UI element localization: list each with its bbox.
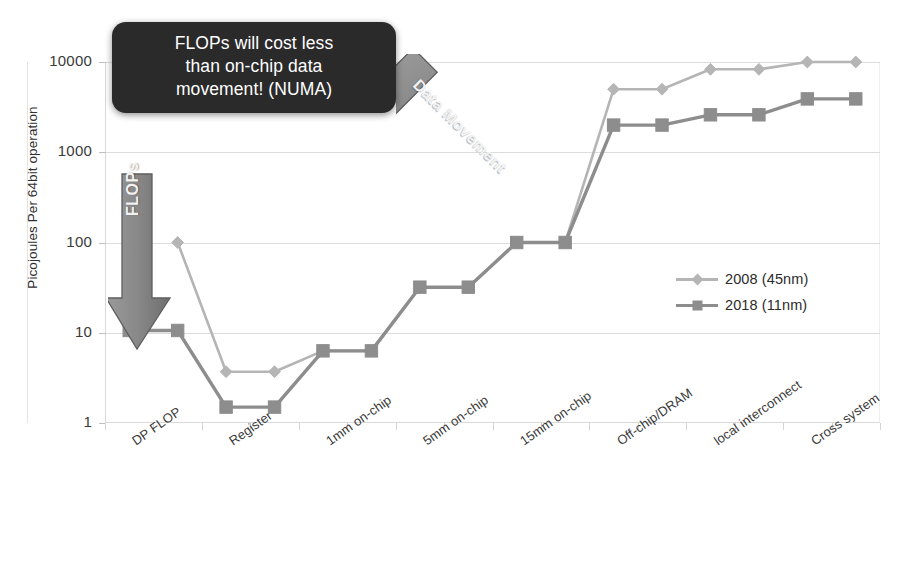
diamond-marker-icon [850, 56, 862, 68]
square-marker-icon [220, 401, 232, 413]
legend-label-2018: 2018 (11nm) [725, 297, 807, 313]
square-marker-icon [850, 93, 862, 105]
callout-line-1: FLOPs will cost less [120, 32, 388, 55]
diamond-marker-icon [691, 273, 704, 286]
square-marker-icon [268, 401, 280, 413]
flops-arrow-label: FLOPs [124, 162, 142, 216]
diamond-marker-icon [220, 366, 232, 378]
callout-line-2: than on-chip data [120, 55, 388, 78]
square-marker-icon [365, 345, 377, 357]
square-marker-icon [753, 109, 765, 121]
legend: 2008 (45nm) 2018 (11nm) [676, 266, 808, 318]
square-marker-icon [656, 119, 668, 131]
chart-canvas: 100001000100101 DP FLOPRegister1mm on-ch… [0, 0, 912, 581]
diamond-marker-icon [753, 63, 765, 75]
callout-line-3: movement! (NUMA) [120, 78, 388, 101]
legend-label-2008: 2008 (45nm) [725, 271, 808, 287]
square-marker-icon [801, 93, 813, 105]
data-movement-arrow-annotation: Data Movement [396, 54, 616, 278]
diamond-marker-icon [801, 56, 813, 68]
flops-arrow-annotation: FLOPs [108, 172, 174, 356]
legend-item-2008[interactable]: 2008 (45nm) [676, 266, 808, 292]
legend-swatch-2018 [676, 304, 718, 307]
square-marker-icon [691, 299, 704, 312]
diamond-marker-icon [269, 366, 281, 378]
diamond-marker-icon [705, 63, 717, 75]
callout-box: FLOPs will cost less than on-chip data m… [112, 22, 396, 113]
legend-swatch-2008 [676, 278, 718, 281]
square-marker-icon [414, 281, 426, 293]
diamond-marker-icon [656, 83, 668, 95]
legend-item-2018[interactable]: 2018 (11nm) [676, 292, 808, 318]
square-marker-icon [317, 345, 329, 357]
square-marker-icon [462, 281, 474, 293]
square-marker-icon [704, 109, 716, 121]
